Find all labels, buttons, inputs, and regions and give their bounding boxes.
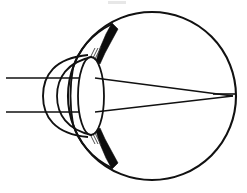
scan-artifact-top [108, 1, 126, 4]
eye-diagram-figure [0, 0, 247, 193]
eye-cross-section-diagram [0, 0, 247, 193]
crystalline-lens [78, 57, 104, 135]
